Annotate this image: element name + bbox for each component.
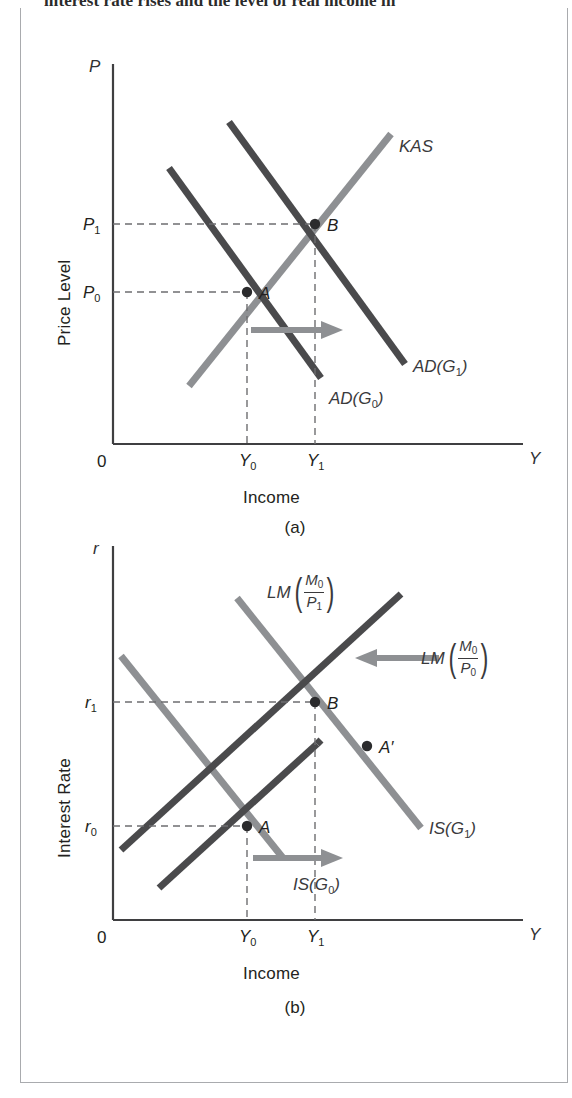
panel-b-y-axis-title: Interest Rate	[55, 758, 75, 858]
curve-label-kas: KAS	[399, 138, 433, 155]
panel-b-point-aprime-dot	[362, 741, 372, 751]
panel-a-xtick-y0: Y0	[239, 452, 256, 472]
curve-label-lm-m0-p1: LM ( M0 P1 )	[267, 572, 337, 613]
panel-a-x-axis-title: Income	[243, 488, 300, 508]
panel-b-xtick-y1: Y1	[307, 928, 324, 948]
panel-b-point-label-aprime: A′	[379, 738, 394, 758]
clipped-running-text: interest rate rises and the level of rea…	[44, 0, 544, 7]
panel-a: P Y Price Level Income 0 P1 P0 Y0 Y1 KAS…	[21, 46, 569, 526]
panel-a-point-label-b: B	[327, 216, 338, 236]
panel-a-ytick-p1: P1	[83, 216, 100, 236]
curve-label-lm-m0-p0: LM ( M0 P0 )	[421, 638, 491, 679]
panel-b-x-axis-symbol: Y	[529, 926, 540, 943]
point-b-dot	[310, 219, 320, 229]
lm-name: LM	[267, 584, 291, 601]
figure-frame: P Y Price Level Income 0 P1 P0 Y0 Y1 KAS…	[20, 8, 568, 1083]
panel-b-xtick-y0: Y0	[239, 928, 256, 948]
paren-open-icon: (	[448, 643, 456, 674]
paren-close-icon: )	[481, 643, 489, 674]
lm-name: LM	[421, 650, 445, 667]
panel-a-point-label-a: A	[259, 284, 270, 304]
panel-a-y-axis-symbol: P	[89, 58, 100, 75]
panel-b-caption: (b)	[21, 998, 569, 1018]
paren-close-icon: )	[327, 577, 335, 608]
point-a-dot	[242, 287, 252, 297]
fraction: M0 P1	[304, 572, 324, 613]
curve-label-is-g0: IS(G0)	[293, 876, 340, 896]
curve-label-ad-g1: AD(G1)	[413, 358, 467, 378]
panel-a-x-axis-symbol: Y	[529, 450, 540, 467]
paren-open-icon: (	[294, 577, 302, 608]
panel-b-x-axis-title: Income	[243, 964, 300, 984]
curve-label-is-g1: IS(G1)	[429, 820, 476, 840]
curve-lm-m0-p1-upper	[317, 740, 321, 744]
curve-ad-g0	[169, 168, 321, 378]
panel-b: r Y Interest Rate Income 0 r1 r0 Y0 Y1 L…	[21, 528, 569, 1048]
curve-label-ad-g0: AD(G0)	[329, 390, 383, 410]
panel-b-point-label-a: A	[259, 818, 270, 838]
curve-lm-m0-p1-lower	[159, 744, 317, 888]
panel-a-y-axis-title: Price Level	[55, 260, 75, 346]
panel-a-origin-label: 0	[97, 452, 106, 472]
panel-a-ytick-p0: P0	[83, 284, 100, 304]
panel-a-xtick-y1: Y1	[307, 452, 324, 472]
fraction: M0 P0	[458, 638, 478, 679]
panel-b-y-axis-symbol: r	[93, 540, 99, 557]
panel-b-ytick-r0: r0	[85, 818, 97, 838]
curve-kas	[189, 134, 391, 386]
panel-b-ytick-r1: r1	[85, 694, 97, 714]
shift-arrow-is-right	[253, 849, 343, 867]
panel-b-point-b-dot	[310, 697, 320, 707]
panel-b-point-label-b: B	[327, 694, 338, 714]
panel-b-point-a-dot	[242, 821, 252, 831]
shift-arrow-ad-right	[251, 321, 343, 339]
panel-b-origin-label: 0	[97, 928, 106, 948]
